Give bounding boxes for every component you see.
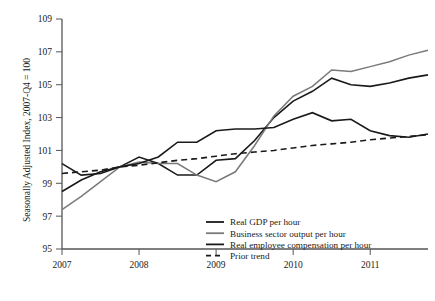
y-tick-label: 97 [43, 212, 53, 222]
legend-label: Prior trend [230, 251, 270, 261]
data-series-group [62, 50, 428, 209]
y-tick-label: 107 [38, 47, 53, 57]
legend-label: Business sector output per hour [230, 229, 346, 239]
x-tick-label: 2009 [207, 260, 226, 270]
legend-label: Real GDP per hour [230, 217, 300, 227]
y-axis-title: Seasonally Adjusted Index, 2007-Q4 = 100 [22, 58, 32, 222]
series-line [62, 75, 428, 175]
y-tick-label: 95 [43, 244, 53, 254]
legend-label: Real employee compensation per hour [230, 240, 371, 250]
x-axis-ticks: 20072008200920102011 [53, 249, 380, 270]
y-tick-label: 103 [38, 113, 53, 123]
series-line [62, 113, 428, 192]
series-line [62, 135, 428, 174]
y-axis-ticks: 959799101103105107109 [38, 14, 62, 254]
line-chart: Seasonally Adjusted Index, 2007-Q4 = 100… [0, 0, 435, 301]
chart-container: Seasonally Adjusted Index, 2007-Q4 = 100… [0, 0, 435, 301]
x-tick-label: 2008 [130, 260, 149, 270]
y-tick-label: 99 [43, 179, 53, 189]
series-line [62, 50, 428, 209]
chart-legend: Real GDP per hourBusiness sector output … [206, 217, 371, 261]
x-tick-label: 2011 [361, 260, 380, 270]
y-tick-label: 109 [38, 14, 53, 24]
y-tick-label: 101 [38, 146, 53, 156]
y-tick-label: 105 [38, 80, 53, 90]
x-tick-label: 2007 [53, 260, 72, 270]
x-tick-label: 2010 [284, 260, 303, 270]
y-axis-title-text: Seasonally Adjusted Index, 2007-Q4 = 100 [22, 58, 32, 222]
